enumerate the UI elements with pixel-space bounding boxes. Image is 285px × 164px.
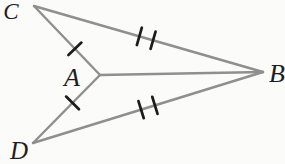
vertex-label-A: A — [62, 63, 80, 92]
vertex-label-D: D — [9, 137, 28, 164]
geometry-diagram: CABD — [0, 0, 285, 164]
segment-AB — [100, 72, 263, 75]
vertex-label-C: C — [3, 0, 19, 24]
diagram-canvas: CABD — [0, 0, 285, 164]
vertex-label-B: B — [269, 59, 285, 88]
